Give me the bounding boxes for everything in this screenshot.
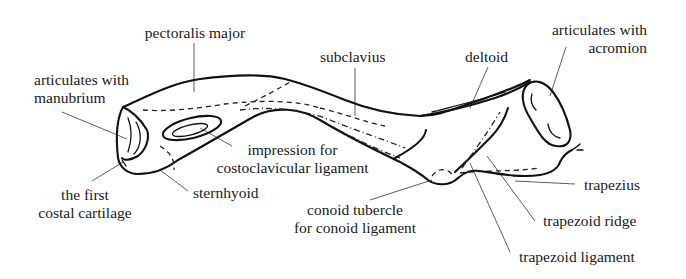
label-impression-line2: costoclavicular ligament [205, 159, 380, 176]
leader-conoid [370, 180, 432, 200]
clavicle-diagram: pectoralis major articulates with manubr… [0, 0, 686, 279]
label-articulates-manubrium-line2: manubrium [34, 89, 105, 106]
leader-sternhyoid [160, 170, 188, 191]
leader-first-costal [92, 162, 123, 181]
label-trapezius: trapezius [584, 176, 640, 193]
label-trapezoid-ridge: trapezoid ridge [543, 212, 636, 229]
label-articulates-acromion-line1: articulates with [530, 21, 647, 38]
leader-trapezius [515, 181, 575, 184]
label-conoid-line2: for conoid ligament [285, 219, 425, 236]
label-first-costal-line2: costal cartilage [30, 204, 140, 221]
label-articulates-acromion-line2: acromion [530, 39, 647, 56]
label-conoid-line1: conoid tubercle [285, 201, 425, 218]
leader-trapezoid-ridge [487, 156, 535, 221]
label-sternhyoid: sternhyoid [193, 184, 258, 201]
label-articulates-manubrium-line1: articulates with [34, 71, 129, 88]
label-subclavius: subclavius [320, 48, 385, 65]
label-deltoid: deltoid [465, 48, 508, 65]
label-impression-line1: impression for [205, 141, 380, 158]
label-first-costal-line1: the first [30, 186, 140, 203]
label-trapezoid-ligament: trapezoid ligament [519, 248, 635, 265]
leader-trapezoid-ligament [470, 163, 510, 252]
label-pectoralis-major: pectoralis major [140, 24, 250, 41]
